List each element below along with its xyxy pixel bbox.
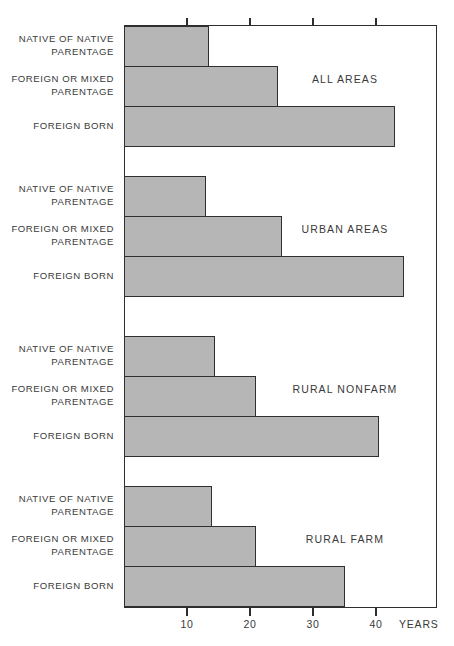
panel-label: URBAN AREAS [302,223,389,235]
bar [124,176,206,217]
row-label: FOREIGN OR MIXED PARENTAGE [0,223,114,248]
bar-chart: 10203040YEARSNATIVE OF NATIVE PARENTAGEF… [0,0,454,646]
row-label: FOREIGN BORN [0,580,114,593]
axis-title-years: YEARS [399,618,439,630]
row-label: FOREIGN OR MIXED PARENTAGE [0,383,114,408]
axis-tick-label: 40 [370,618,383,630]
axis-tick-bottom [249,608,251,616]
bar [124,216,282,257]
axis-tick-label: 10 [181,618,194,630]
axis-tick-top [312,18,314,26]
bar [124,526,256,567]
bar [124,26,209,67]
row-label: FOREIGN BORN [0,430,114,443]
axis-tick-top [375,18,377,26]
panel-label: ALL AREAS [312,73,378,85]
axis-tick-bottom [375,608,377,616]
panel-label: RURAL FARM [306,533,384,545]
row-label: NATIVE OF NATIVE PARENTAGE [0,343,114,368]
axis-tick-top [249,18,251,26]
row-label: NATIVE OF NATIVE PARENTAGE [0,183,114,208]
row-label: FOREIGN BORN [0,270,114,283]
axis-tick-bottom [186,608,188,616]
row-label: NATIVE OF NATIVE PARENTAGE [0,493,114,518]
panel-label: RURAL NONFARM [293,383,398,395]
bar [124,416,379,457]
row-label: NATIVE OF NATIVE PARENTAGE [0,33,114,58]
bar [124,66,278,107]
axis-tick-label: 20 [244,618,257,630]
row-label: FOREIGN BORN [0,120,114,133]
bar [124,106,395,147]
row-label: FOREIGN OR MIXED PARENTAGE [0,73,114,98]
row-label: FOREIGN OR MIXED PARENTAGE [0,533,114,558]
axis-tick-top [186,18,188,26]
bar [124,256,404,297]
bar [124,336,215,377]
axis-tick-label: 30 [307,618,320,630]
bar [124,376,256,417]
bar [124,486,212,527]
axis-tick-bottom [312,608,314,616]
bar [124,566,345,607]
